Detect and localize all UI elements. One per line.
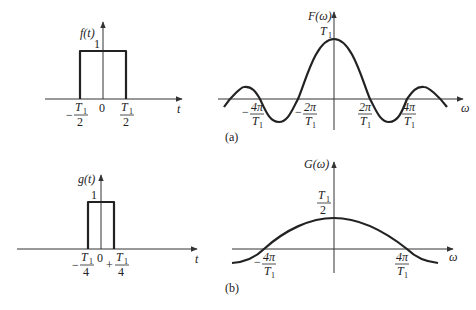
tick-label-minus-4pi-over-T1: − 4π T 1 [242, 100, 264, 130]
origin-label-g: 0 [97, 251, 103, 265]
svg-text:4: 4 [83, 265, 89, 279]
tick-label-minus-2pi-over-T1: − 2π T 1 [295, 100, 317, 130]
xlabel-omega-F: ω [461, 101, 469, 115]
svg-text:−: − [254, 255, 261, 269]
plot-g-of-t: g(t) 1 0 t − T 1 4 + T 1 4 [17, 172, 199, 279]
svg-text:4π: 4π [403, 100, 416, 114]
ylabel-g: g(t) [78, 172, 95, 186]
figure: f(t) 1 0 t − T 1 2 T 1 2 F(ω) T 1 ω [0, 0, 476, 310]
svg-text:1: 1 [271, 271, 275, 280]
xlabel-t-g: t [195, 252, 199, 266]
svg-text:−: − [242, 105, 249, 119]
svg-text:1: 1 [367, 121, 371, 130]
svg-text:T: T [121, 100, 129, 114]
svg-text:T: T [75, 100, 83, 114]
tick-label-4pi-over-T1-b: 4π T 1 [395, 250, 409, 280]
peak-label-T1-over-2: T 1 2 [317, 188, 331, 217]
svg-text:2π: 2π [359, 100, 372, 114]
plot-G-of-omega: G(ω) T 1 2 ω − 4π T 1 4π T 1 (b) [225, 157, 457, 295]
xlabel-omega-G: ω [449, 250, 457, 264]
svg-text:1: 1 [259, 121, 263, 130]
panel-label-a: (a) [225, 130, 238, 144]
origin-label-f: 0 [99, 101, 105, 115]
svg-text:4π: 4π [251, 100, 264, 114]
svg-text:T: T [320, 24, 328, 38]
tick-label-T1-over-2: T 1 2 [120, 100, 134, 129]
svg-text:1: 1 [328, 31, 332, 40]
svg-text:2: 2 [320, 203, 326, 217]
xlabel-t-f: t [177, 102, 181, 116]
svg-text:2: 2 [77, 115, 83, 129]
plot-F-of-omega: F(ω) T 1 ω − 4π T 1 − 2π T 1 2π T 1 4π [218, 9, 469, 144]
svg-text:2π: 2π [304, 100, 317, 114]
ylabel-G: G(ω) [304, 157, 329, 171]
svg-text:1: 1 [312, 121, 316, 130]
tick-label-minus-T1-over-4: − T 1 4 [72, 250, 94, 279]
svg-text:4: 4 [118, 265, 124, 279]
amplitude-label-g: 1 [91, 188, 97, 202]
peak-label-T1: T 1 [320, 24, 332, 40]
tick-label-2pi-over-T1: 2π T 1 [358, 100, 372, 130]
svg-text:−: − [295, 105, 302, 119]
svg-text:−: − [72, 258, 79, 272]
svg-text:T: T [81, 250, 89, 264]
tick-label-minus-T1-over-2: − T 1 2 [66, 100, 88, 129]
svg-text:−: − [66, 108, 73, 122]
panel-label-b: (b) [225, 281, 239, 295]
tick-label-plus-T1-over-4: + T 1 4 [106, 250, 129, 279]
svg-text:4π: 4π [396, 250, 409, 264]
svg-text:1: 1 [411, 121, 415, 130]
svg-text:T: T [318, 188, 326, 202]
tick-label-minus-4pi-over-T1-b: − 4π T 1 [254, 250, 276, 280]
plot-f-of-t: f(t) 1 0 t − T 1 2 T 1 2 [45, 22, 182, 129]
svg-text:T: T [116, 250, 124, 264]
ylabel-f: f(t) [80, 26, 95, 40]
svg-text:2: 2 [123, 115, 129, 129]
svg-text:1: 1 [404, 271, 408, 280]
svg-text:+: + [106, 258, 113, 272]
amplitude-label-f: 1 [94, 37, 100, 51]
ylabel-F: F(ω) [307, 9, 332, 23]
svg-text:4π: 4π [263, 250, 276, 264]
tick-label-4pi-over-T1: 4π T 1 [402, 100, 416, 130]
